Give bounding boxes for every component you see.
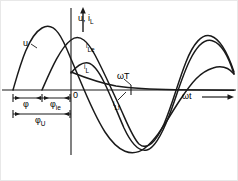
ile-curve-label: iLe [86,43,95,54]
phase-label-phi-text: φ [23,99,29,109]
u-leader-line [31,44,37,48]
ilf-leader-line [118,92,126,100]
phase-label-phi-u: φU [35,116,46,127]
origin-label: 0 [73,91,78,100]
ile-curve-label-subscript: Le [87,46,94,53]
voltage-curve-label-text: u [23,38,28,48]
omega-t-arrow-icon [202,94,234,100]
ilf-curve-label: iLf [113,101,120,112]
phase-label-phi-u-subscript: U [41,120,46,127]
il-curve-label-subscript: L [85,67,89,74]
curve-iLf [71,72,234,90]
y-axis-label-subscript: L [90,18,94,25]
ilf-curve-label-subscript: Lf [114,104,119,111]
omega-T-marker-label: ωT [117,72,130,81]
phase-label-phi-ie-subscript: ie [56,104,61,111]
waveform-diagram: u, iL 0 ωt ωT u iLe iL iLf φ φie φU [0,0,238,181]
voltage-curve-label: u [23,39,28,48]
il-curve-label: iL [84,64,89,75]
phase-bar-phi [13,94,71,102]
waveform-plot-svg [0,0,238,181]
x-axis-label: ωt [182,92,192,101]
phase-label-phi: φ [23,100,29,111]
phase-label-phi-ie: φie [50,100,61,111]
y-axis-label: u, iL [78,14,94,25]
y-axis-label-text: u, i [78,13,90,23]
